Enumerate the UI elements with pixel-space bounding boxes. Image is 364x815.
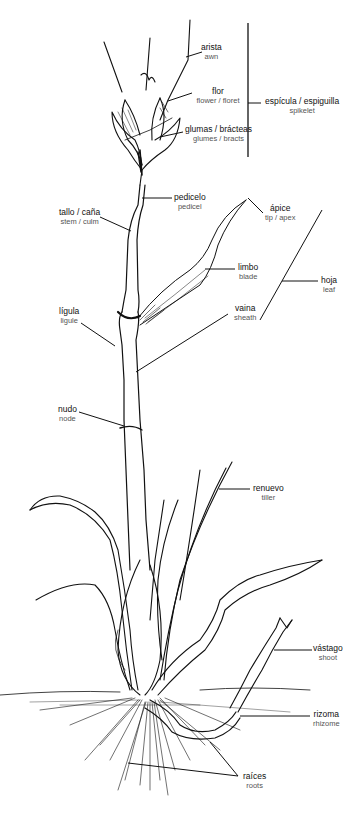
label-spikelet: espícula / espiguilla spikelet xyxy=(265,96,339,116)
shoot-drawing xyxy=(230,618,292,712)
label-rhizome: rizoma rhizome xyxy=(313,709,340,729)
label-en: glumes / bracts xyxy=(185,134,252,144)
label-es: hoja xyxy=(321,275,337,285)
label-es: ápice xyxy=(265,203,295,213)
label-es: renuevo xyxy=(253,483,284,493)
label-sheath: vaina sheath xyxy=(234,303,257,323)
label-en: leaf xyxy=(321,285,337,295)
stem-drawing xyxy=(118,185,150,570)
label-blade: limbo blade xyxy=(238,262,258,282)
label-es: nudo xyxy=(58,404,77,414)
label-es: glumas / brácteas xyxy=(185,124,252,134)
label-node: nudo node xyxy=(58,404,77,424)
label-shoot: vástago shoot xyxy=(313,643,343,663)
label-pedicel: pedicelo pedicel xyxy=(174,192,206,212)
label-en: ligule xyxy=(59,316,79,326)
label-apex: ápice tip / apex xyxy=(265,203,295,223)
label-es: pedicelo xyxy=(174,192,206,202)
label-en: stem / culm xyxy=(59,217,100,227)
label-glumes: glumas / brácteas glumes / bracts xyxy=(185,124,252,144)
label-roots: raíces roots xyxy=(243,771,266,791)
label-en: flower / floret xyxy=(197,96,240,106)
label-en: node xyxy=(58,414,77,424)
ground-line xyxy=(0,688,310,695)
label-en: roots xyxy=(243,781,266,791)
label-leaf: hoja leaf xyxy=(321,275,337,295)
label-en: sheath xyxy=(234,313,257,323)
label-es: tallo / caña xyxy=(59,207,100,217)
label-en: tiller xyxy=(253,493,284,503)
label-es: limbo xyxy=(238,262,258,272)
label-es: raíces xyxy=(243,771,266,781)
label-es: espícula / espiguilla xyxy=(265,96,339,106)
label-en: awn xyxy=(201,52,222,62)
label-en: rhizome xyxy=(313,719,340,729)
label-tiller: renuevo tiller xyxy=(253,483,284,503)
spikelet-drawing xyxy=(104,20,190,185)
label-ligule: lígula ligule xyxy=(59,306,79,326)
leaf-blade-drawing xyxy=(138,200,246,325)
label-en: blade xyxy=(238,272,258,282)
label-es: vástago xyxy=(313,643,343,653)
label-floret: flor flower / floret xyxy=(197,86,240,106)
label-en: shoot xyxy=(313,653,343,663)
label-es: arista xyxy=(201,42,222,52)
label-awn: arista awn xyxy=(201,42,222,62)
label-es: lígula xyxy=(59,306,79,316)
label-en: tip / apex xyxy=(265,213,295,223)
label-en: spikelet xyxy=(265,106,339,116)
label-es: rizoma xyxy=(313,709,340,719)
label-es: vaina xyxy=(234,303,257,313)
label-en: pedicel xyxy=(174,202,206,212)
rhizome-drawing xyxy=(145,700,240,739)
label-es: flor xyxy=(197,86,240,96)
label-stem: tallo / caña stem / culm xyxy=(59,207,100,227)
grass-anatomy-illustration xyxy=(0,0,364,815)
